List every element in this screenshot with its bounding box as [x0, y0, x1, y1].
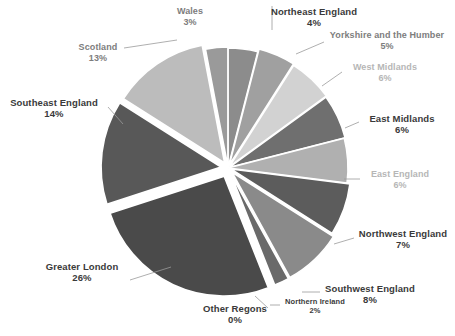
pie-label-name: Scotland — [68, 42, 128, 53]
pie-label-percent: 6% — [358, 180, 442, 191]
pie-label-name: Greater London — [36, 261, 128, 272]
pie-label-percent: 26% — [36, 272, 128, 283]
pie-label: Other Regons0% — [194, 303, 276, 325]
pie-label-name: West Midlands — [341, 62, 429, 73]
pie-label-percent: 6% — [341, 73, 429, 84]
pie-label-name: Northwest England — [352, 228, 454, 239]
pie-label: East Midlands6% — [357, 113, 447, 135]
pie-label-percent: 3% — [162, 17, 218, 28]
pie-label: Northeast England4% — [266, 6, 362, 28]
leader-line — [322, 72, 342, 86]
pie-label: East England6% — [358, 169, 442, 190]
pie-label-percent: 14% — [2, 108, 106, 119]
pie-chart: Wales3%Northeast England4%Yorkshire and … — [0, 0, 455, 336]
pie-label: West Midlands6% — [341, 62, 429, 83]
pie-label-percent: 2% — [277, 307, 353, 316]
pie-label-name: Other Regons — [194, 303, 276, 314]
pie-label-percent: 13% — [68, 53, 128, 64]
pie-label-percent: 5% — [320, 41, 454, 52]
pie-label-name: Southeast England — [2, 97, 106, 108]
pie-label-percent: 6% — [357, 124, 447, 135]
pie-label: Yorkshire and the Humber5% — [320, 30, 454, 51]
pie-label-name: Wales — [162, 6, 218, 17]
pie-label-name: East Midlands — [357, 113, 447, 124]
pie-label-name: Northeast England — [266, 6, 362, 17]
pie-label: Northwest England7% — [352, 228, 454, 250]
pie-label: Southeast England14% — [2, 97, 106, 119]
pie-label-percent: 7% — [352, 239, 454, 250]
pie-label: Greater London26% — [36, 261, 128, 283]
pie-label-name: Yorkshire and the Humber — [320, 30, 454, 41]
pie-label-name: Southwest England — [318, 283, 422, 294]
pie-label-percent: 0% — [194, 314, 276, 325]
pie-label-percent: 4% — [266, 17, 362, 28]
pie-label-name: East England — [358, 169, 442, 180]
leader-line — [334, 238, 354, 244]
pie-label: Wales3% — [162, 6, 218, 27]
pie-label: Northern Ireland2% — [277, 298, 353, 316]
pie-slice-group — [101, 45, 350, 296]
leader-line — [124, 40, 177, 48]
pie-label: Scotland13% — [68, 42, 128, 63]
